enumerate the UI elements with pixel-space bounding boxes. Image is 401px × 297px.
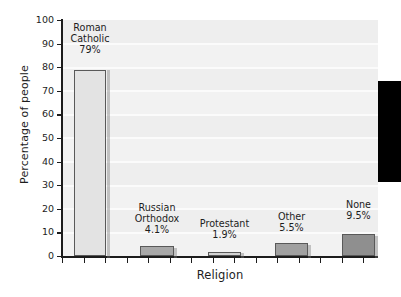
x-tick — [84, 257, 85, 263]
x-tick — [277, 257, 278, 263]
y-tick — [57, 209, 62, 210]
y-tick — [57, 114, 62, 115]
x-tick — [148, 257, 149, 263]
y-tick-label: 30 — [42, 180, 54, 190]
x-tick — [256, 257, 257, 263]
x-tick — [170, 257, 171, 263]
black-accent-block — [378, 81, 401, 182]
y-tick-label: 10 — [42, 227, 54, 237]
bar-chart: 100 90 80 70 60 50 40 30 20 10 0 Roman C… — [0, 0, 401, 297]
y-tick-label: 40 — [42, 157, 54, 167]
x-tick — [342, 257, 343, 263]
bar-shadow — [174, 248, 177, 258]
bar-label-other: Other 5.5% — [257, 211, 326, 233]
y-tick — [57, 232, 62, 233]
bar-other[interactable] — [275, 243, 308, 256]
bar-protestant[interactable] — [208, 252, 241, 257]
y-tick-label: 70 — [42, 86, 54, 96]
y-tick-label: 90 — [42, 39, 54, 49]
y-axis-title: Percentage of people — [18, 25, 31, 225]
bar-shadow — [107, 70, 110, 258]
x-tick — [191, 257, 192, 263]
bar-shadow — [375, 236, 378, 258]
y-axis: 100 90 80 70 60 50 40 30 20 10 0 — [0, 0, 62, 277]
x-axis-title: Religion — [62, 268, 378, 282]
y-tick-label: 100 — [36, 15, 54, 25]
y-tick-label: 0 — [48, 251, 54, 261]
bar-label-roman-catholic: Roman Catholic 79% — [55, 22, 125, 56]
y-tick — [57, 67, 62, 68]
bar-russian-orthodox[interactable] — [140, 246, 174, 256]
x-tick — [234, 257, 235, 263]
bar-label-protestant: Protestant 1.9% — [190, 218, 259, 240]
x-tick — [320, 257, 321, 263]
x-tick — [363, 257, 364, 263]
bar-shadow — [308, 245, 311, 258]
bar-label-none: None 9.5% — [324, 199, 393, 221]
y-tick — [57, 91, 62, 92]
bar-shadow — [241, 253, 244, 258]
y-tick — [57, 185, 62, 186]
bar-label-russian-orthodox: Russian Orthodox 4.1% — [120, 202, 194, 236]
grid-line — [62, 67, 378, 69]
y-tick — [57, 162, 62, 163]
x-tick — [127, 257, 128, 263]
bar-none[interactable] — [342, 234, 375, 256]
y-tick-label: 60 — [42, 109, 54, 119]
y-tick-label: 20 — [42, 204, 54, 214]
y-tick — [57, 138, 62, 139]
x-tick — [62, 257, 63, 263]
y-tick-label: 50 — [42, 133, 54, 143]
y-tick-label: 80 — [42, 62, 54, 72]
bar-roman-catholic[interactable] — [74, 70, 106, 256]
x-tick — [299, 257, 300, 263]
x-tick — [213, 257, 214, 263]
